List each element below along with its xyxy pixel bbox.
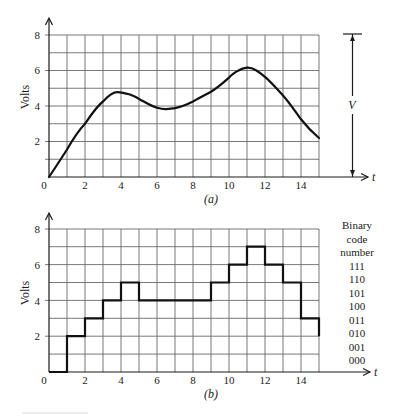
- xtick-a-14: 14: [296, 179, 308, 191]
- xtick-a-0: 0: [41, 179, 47, 191]
- panel-a: V t Volts 8 6 4 2 0 2 4 6 8 10 12 14 (a): [18, 18, 376, 206]
- ytick-b-8: 8: [35, 223, 41, 235]
- code-100: 100: [349, 300, 366, 312]
- panel-label-b: (b): [204, 387, 218, 401]
- xtick-a-8: 8: [190, 179, 196, 191]
- binary-code-legend: Binary code number 111 110 101 100 011 0…: [340, 219, 374, 366]
- xtick-b-12: 12: [260, 374, 271, 386]
- ytick-b-6: 6: [35, 259, 41, 271]
- v-label: V: [348, 98, 357, 112]
- panel-b: t Volts 8 6 4 2 0 2 4 6 8 10 12 14 (b) B…: [18, 213, 378, 401]
- xtick-b-6: 6: [154, 374, 160, 386]
- code-110: 110: [349, 273, 366, 285]
- t-label-b: t: [374, 365, 378, 379]
- xtick-a-12: 12: [260, 179, 271, 191]
- ytick-a-8: 8: [35, 29, 41, 41]
- ytick-a-2: 2: [35, 135, 41, 147]
- ytick-b-2: 2: [35, 330, 41, 342]
- xtick-a-2: 2: [82, 179, 88, 191]
- code-111: 111: [349, 260, 365, 272]
- quantized-steps: [49, 247, 319, 372]
- xtick-a-4: 4: [118, 179, 124, 191]
- panel-label-a: (a): [204, 192, 218, 206]
- xtick-a-10: 10: [224, 179, 236, 191]
- figure: V t Volts 8 6 4 2 0 2 4 6 8 10 12 14 (a): [0, 0, 399, 416]
- ylabel-a: Volts: [18, 84, 32, 109]
- ylabel-b: Volts: [18, 280, 32, 305]
- xtick-b-4: 4: [118, 374, 124, 386]
- xtick-b-10: 10: [224, 374, 236, 386]
- xtick-b-0: 0: [41, 374, 47, 386]
- code-001: 001: [349, 341, 366, 353]
- t-label-a: t: [372, 170, 376, 184]
- v-arrow-up: [350, 35, 355, 41]
- code-101: 101: [349, 287, 366, 299]
- xtick-a-6: 6: [154, 179, 160, 191]
- xtick-b-14: 14: [296, 374, 308, 386]
- xtick-b-8: 8: [190, 374, 196, 386]
- xtick-b-2: 2: [82, 374, 88, 386]
- code-010: 010: [349, 327, 366, 339]
- ytick-a-6: 6: [35, 64, 41, 76]
- code-000: 000: [349, 354, 366, 366]
- code-011: 011: [349, 314, 365, 326]
- v-arrow-down: [350, 170, 355, 176]
- analog-curve: [49, 68, 319, 177]
- legend-title-2: code: [347, 233, 368, 245]
- legend-title-1: Binary: [342, 219, 372, 231]
- ytick-a-4: 4: [35, 100, 41, 112]
- ytick-b-4: 4: [35, 295, 41, 307]
- legend-title-3: number: [340, 246, 374, 258]
